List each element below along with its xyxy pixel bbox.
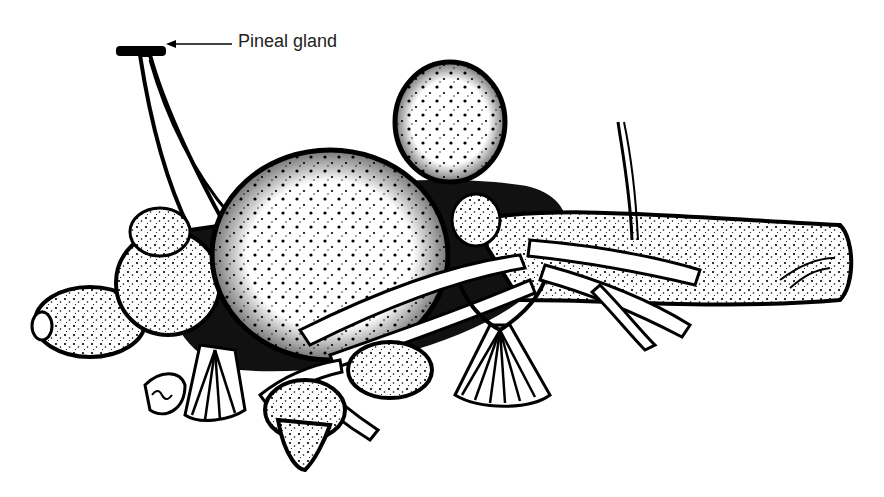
brain-illustration	[0, 0, 884, 497]
pineal-pointer	[166, 40, 232, 48]
annotation-pineal-gland: Pineal gland	[238, 31, 337, 52]
fan-nerve-left	[145, 345, 245, 420]
pineal-stalk	[116, 46, 230, 230]
pineal-gland	[116, 46, 166, 56]
